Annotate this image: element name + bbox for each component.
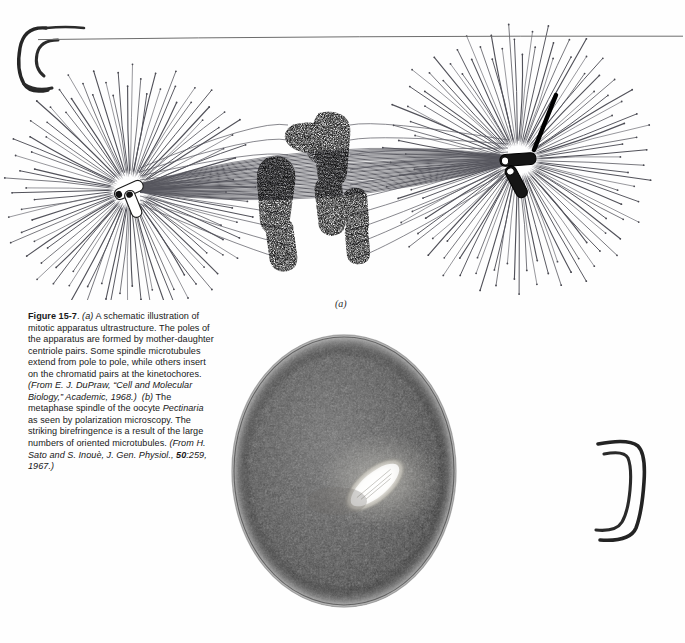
microtubule-tip: [231, 207, 233, 209]
microtubule-tip: [622, 143, 624, 145]
microtubule-tip: [586, 242, 588, 244]
microtubule-tip: [427, 254, 429, 256]
microtubule-tip: [631, 89, 633, 91]
microtubule-tip: [622, 218, 624, 220]
astral-microtubule: [56, 199, 121, 267]
microtubule-tip: [536, 260, 538, 262]
microtubule-tip: [614, 79, 616, 81]
microtubule-tip: [31, 151, 33, 153]
microtubule-tip: [459, 257, 461, 259]
microtubule-tip: [53, 283, 55, 285]
microtubule-tip: [599, 75, 601, 77]
microtubule-tip: [34, 240, 36, 242]
microtubule-tip: [34, 168, 36, 170]
figure-caption: Figure 15-7. (a) A schematic illustratio…: [28, 311, 214, 473]
microtubule-tip: [173, 288, 175, 290]
microtubule-tip: [19, 170, 21, 172]
astral-microtubule: [531, 172, 618, 255]
microtubule-tip: [245, 144, 247, 146]
microtubule-tip: [252, 216, 254, 218]
microtubule-tip: [34, 199, 36, 201]
microtubule-tip: [119, 292, 121, 294]
microtubule-tip: [222, 254, 224, 256]
microtubule-tip: [534, 46, 536, 48]
microtubule-tip: [433, 56, 435, 58]
astral-microtubule: [66, 112, 121, 179]
microtubule-tip: [457, 49, 459, 51]
microtubule-tip: [414, 135, 416, 137]
microtubule-tip: [236, 221, 238, 223]
astral-microtubule: [534, 161, 644, 166]
microtubule-tip: [599, 250, 601, 252]
microtubule-tip: [47, 247, 49, 249]
microtubule-tip: [183, 274, 185, 276]
microtubule-tip: [26, 255, 28, 257]
microtubule-tip: [623, 123, 625, 125]
astral-microtubule: [496, 176, 515, 286]
astral-microtubule: [133, 73, 156, 176]
astral-microtubule: [133, 94, 147, 172]
astral-microtubule: [130, 210, 132, 286]
microtubule-tip: [602, 57, 604, 59]
microtubule-tip: [621, 101, 623, 103]
microtubule-tip: [68, 285, 70, 287]
microtubule-tip: [408, 246, 410, 248]
microtubule-tip: [643, 164, 645, 166]
microtubule-tip: [203, 266, 205, 268]
microtubule-tip: [206, 252, 208, 254]
caption-species: Pectinaria: [163, 403, 204, 413]
microtubule-tip: [501, 48, 503, 50]
microtubule-tip: [621, 203, 623, 205]
microtubule-tip: [557, 261, 559, 263]
astral-microtubule: [48, 199, 118, 248]
microtubule-tip: [585, 280, 587, 282]
micrograph-canvas: [231, 331, 457, 643]
astral-microtubule: [533, 80, 615, 148]
microtubule-tip: [176, 102, 178, 104]
microtubule-tip: [117, 72, 119, 74]
microtubule-tip: [237, 257, 239, 259]
microtubule-tip: [593, 265, 595, 267]
astral-microtubule: [26, 188, 112, 190]
astral-microtubule: [139, 90, 212, 179]
chromosome-group: [257, 112, 370, 272]
microtubule-tip: [422, 197, 424, 199]
microtubule-tip: [605, 218, 607, 220]
microtubule-tip: [518, 293, 520, 295]
astral-microtubule: [128, 86, 130, 174]
astral-microtubule: [12, 190, 116, 193]
polarization-micrograph: [231, 331, 457, 643]
astral-microtubule: [106, 207, 126, 299]
microtubule-tip: [648, 124, 650, 126]
microtubule-tip: [140, 78, 142, 80]
microtubule-tip: [217, 273, 219, 275]
microtubule-tip: [410, 121, 412, 123]
microtubule-tip: [570, 56, 572, 58]
microtubule-tip: [560, 284, 562, 286]
microtubule-tip: [617, 189, 619, 191]
microtubule-tip: [526, 270, 528, 272]
microtubule-tip: [477, 257, 479, 259]
astral-microtubule: [533, 123, 624, 154]
microtubule-tip: [211, 89, 213, 91]
hand-drawn-bracket-close: [594, 428, 676, 552]
microtubule-tip: [45, 136, 47, 138]
microtubule-tip: [514, 278, 516, 280]
microtubule-tip: [522, 54, 524, 56]
microtubule-tip: [650, 179, 652, 181]
microtubule-tip: [72, 270, 74, 272]
microtubule-tip: [407, 106, 409, 108]
microtubule-tip: [92, 94, 94, 96]
microtubule-tip: [11, 192, 13, 194]
astral-microtubule: [53, 203, 119, 283]
microtubule-tip: [202, 119, 204, 121]
microtubule-tip: [409, 86, 411, 88]
microtubule-tip: [187, 297, 189, 299]
microtubule-tip: [15, 155, 17, 157]
microtubule-tip: [491, 58, 493, 60]
microtubule-tip: [410, 189, 412, 191]
microtubule-tip: [627, 172, 629, 174]
microtubule-tip: [450, 63, 452, 65]
microtubule-tip: [459, 275, 461, 277]
microtubule-tip: [495, 285, 497, 287]
